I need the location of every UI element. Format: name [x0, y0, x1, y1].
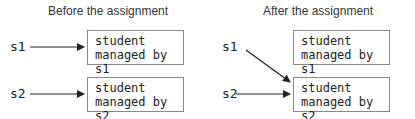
panel-title: After the assignment: [263, 4, 373, 18]
box-line: managed by s2: [301, 95, 389, 119]
box-line: student: [301, 34, 389, 48]
var-s2: s2: [10, 86, 26, 101]
object-box-s1: student managed by s1: [87, 30, 184, 65]
arrow-after-s1: [246, 50, 290, 82]
box-line: managed by s1: [301, 48, 389, 76]
box-line: managed by s1: [95, 48, 183, 76]
box-line: student: [301, 81, 389, 95]
object-box-s1: student managed by s1: [293, 30, 390, 65]
box-line: student: [95, 34, 183, 48]
box-line: student: [95, 81, 183, 95]
var-s1: s1: [222, 39, 238, 54]
var-s1: s1: [10, 39, 26, 54]
var-s2: s2: [222, 86, 238, 101]
object-box-s2: student managed by s2: [293, 77, 390, 112]
box-line: managed by s2: [95, 95, 183, 119]
object-box-s2: student managed by s2: [87, 77, 184, 112]
panel-title: Before the assignment: [48, 4, 168, 18]
